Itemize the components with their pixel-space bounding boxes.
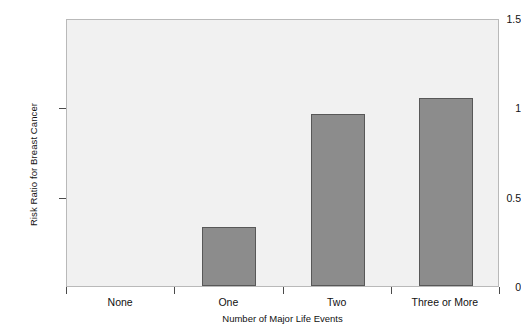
x-tick-label-none: None [108, 296, 133, 309]
y-tick-mark-0.5 [59, 198, 66, 199]
y-axis-title: Risk Ratio for Breast Cancer [22, 0, 44, 329]
bar-chart: Risk Ratio for Breast Cancer 1.5 1 0.5 0… [0, 0, 521, 329]
x-tick-mark-2 [283, 287, 284, 294]
bar-one [202, 227, 256, 286]
x-tick-mark-4 [499, 287, 500, 294]
y-tick-mark-1 [59, 108, 66, 109]
plot-area [66, 19, 499, 287]
bar-two [311, 114, 365, 286]
bar-three-or-more [419, 98, 473, 286]
x-tick-mark-1 [174, 287, 175, 294]
x-tick-label-three-or-more: Three or More [412, 296, 479, 309]
x-tick-label-two: Two [327, 296, 346, 309]
x-tick-label-one: One [218, 296, 238, 309]
x-tick-mark-3 [391, 287, 392, 294]
x-tick-mark-0 [66, 287, 67, 294]
x-axis-title: Number of Major Life Events [66, 313, 499, 324]
